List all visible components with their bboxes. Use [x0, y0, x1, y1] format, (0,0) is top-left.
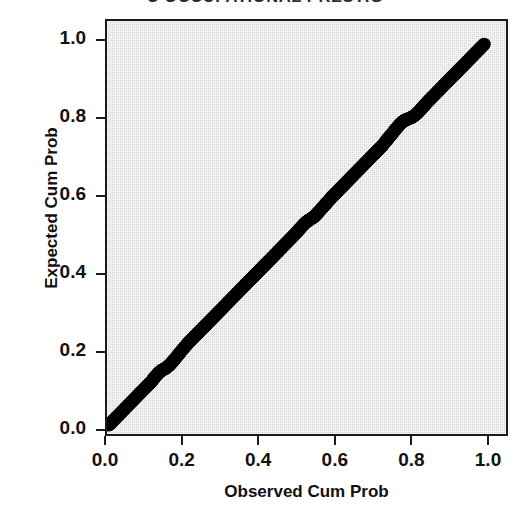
x-axis-tick [334, 436, 336, 445]
pp-plot-data-series [107, 21, 506, 434]
y-axis-tick [96, 117, 105, 119]
y-axis-tick [96, 351, 105, 353]
y-axis-tick [96, 39, 105, 41]
x-axis-tick [410, 436, 412, 445]
y-axis-tick-label: 0.6 [16, 183, 86, 205]
y-axis-tick [96, 195, 105, 197]
x-axis-tick-label: 0.8 [376, 449, 446, 471]
x-axis-tick [487, 436, 489, 445]
x-axis-label: Observed Cum Prob [105, 482, 508, 502]
y-axis-tick-label: 1.0 [16, 27, 86, 49]
x-axis-tick [257, 436, 259, 445]
plot-inner [107, 21, 506, 434]
y-axis-tick-label: 0.0 [16, 417, 86, 439]
y-axis-tick-label: 0.2 [16, 339, 86, 361]
x-axis-tick-label: 1.0 [453, 449, 523, 471]
y-axis-tick [96, 429, 105, 431]
plot-area [105, 19, 508, 436]
chart-title: C OCCUPATIONAL PRESTIG [0, 0, 530, 6]
y-axis-tick-label: 0.8 [16, 105, 86, 127]
y-axis-tick [96, 273, 105, 275]
x-axis-tick [181, 436, 183, 445]
x-axis-tick-label: 0.4 [223, 449, 293, 471]
y-axis-tick-label: 0.4 [16, 261, 86, 283]
x-axis-tick-label: 0.6 [300, 449, 370, 471]
x-axis-tick-label: 0.0 [70, 449, 140, 471]
x-axis-tick [104, 436, 106, 445]
x-axis-tick-label: 0.2 [147, 449, 217, 471]
